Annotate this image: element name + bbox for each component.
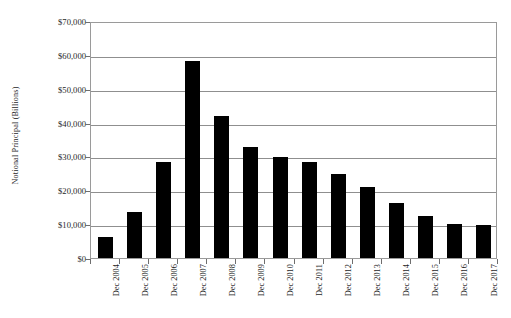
bar <box>243 147 258 258</box>
y-axis-tick-label: $40,000 <box>20 119 86 129</box>
x-axis-tick-label: Dec 2009 <box>255 264 269 318</box>
y-axis-tick-label: $50,000 <box>20 85 86 95</box>
plot-area <box>90 22 497 259</box>
bar <box>360 187 375 258</box>
bar <box>447 224 462 258</box>
y-axis-tick-labels: $0$10,000$20,000$30,000$40,000$50,000$60… <box>18 22 86 259</box>
bar <box>418 216 433 258</box>
bar <box>214 116 229 258</box>
y-axis-tick-label: $20,000 <box>20 186 86 196</box>
y-axis-tick-label: $60,000 <box>20 51 86 61</box>
bar <box>98 237 113 258</box>
x-axis-tick-label: Dec 2013 <box>371 264 385 318</box>
bar <box>185 61 200 258</box>
x-axis-tick-label: Dec 2015 <box>429 264 443 318</box>
bar-chart: Notional Principal (Billions) $0$10,000$… <box>0 0 511 318</box>
x-axis-tick-label: Dec 2011 <box>313 264 327 318</box>
x-axis-tick-label: Dec 2007 <box>197 264 211 318</box>
bar <box>273 157 288 258</box>
y-axis-tick-label: $30,000 <box>20 152 86 162</box>
x-axis-tick-label: Dec 2006 <box>168 264 182 318</box>
y-axis-tick-label: $0 <box>20 254 86 264</box>
bar <box>476 225 491 258</box>
x-axis-tick-label: Dec 2012 <box>342 264 356 318</box>
x-axis-tick-label: Dec 2010 <box>284 264 298 318</box>
bar <box>331 174 346 258</box>
bars-layer <box>91 23 496 258</box>
x-axis-tick-label: Dec 2005 <box>139 264 153 318</box>
x-axis-tick-label: Dec 2014 <box>400 264 414 318</box>
y-axis-tick-label: $70,000 <box>20 17 86 27</box>
bar <box>156 162 171 258</box>
x-axis-tick-label: Dec 2004 <box>110 264 124 318</box>
bar <box>389 203 404 259</box>
x-axis-tick-label: Dec 2017 <box>488 264 502 318</box>
bar <box>302 162 317 259</box>
x-axis-tick-labels: Dec 2004Dec 2005Dec 2006Dec 2007Dec 2008… <box>90 264 497 318</box>
y-axis-tick-label: $10,000 <box>20 220 86 230</box>
bar <box>127 212 142 258</box>
x-axis-tick-label: Dec 2008 <box>226 264 240 318</box>
x-axis-tick-label: Dec 2016 <box>458 264 472 318</box>
